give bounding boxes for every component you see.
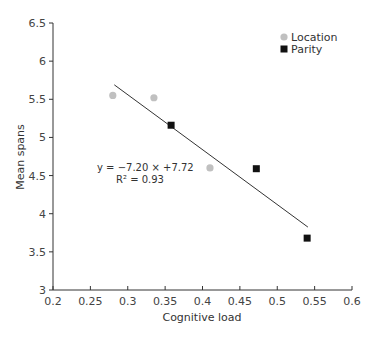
legend-label-parity: Parity	[291, 43, 323, 56]
x-tick-label: 0.5	[269, 295, 287, 308]
x-tick-label: 0.25	[78, 295, 103, 308]
y-axis-title: Mean spans	[14, 124, 27, 190]
x-axis-title: Cognitive load	[162, 311, 241, 324]
legend-marker-square-icon	[281, 46, 288, 53]
x-axis: 0.20.250.30.350.40.450.50.550.6	[44, 286, 361, 308]
x-tick-label: 0.6	[343, 295, 361, 308]
data-point-parity	[168, 122, 175, 129]
y-tick-label: 6.5	[29, 17, 47, 30]
x-tick-label: 0.35	[153, 295, 178, 308]
trendline-path	[114, 85, 308, 227]
r-squared-label: R² = 0.93	[116, 174, 164, 185]
data-point-location	[150, 94, 157, 101]
y-axis: 33.544.555.566.5	[29, 17, 54, 297]
x-tick-label: 0.3	[119, 295, 137, 308]
legend-marker-circle-icon	[280, 33, 287, 40]
x-tick-label: 0.2	[44, 295, 62, 308]
data-point-parity	[253, 165, 260, 172]
trendline	[114, 85, 308, 227]
y-tick-label: 4.5	[29, 170, 47, 183]
regression-equation: y = −7.20 × +7.72	[97, 162, 194, 173]
data-point-location	[109, 92, 116, 99]
y-tick-label: 3.5	[29, 246, 47, 259]
y-tick-label: 5.5	[29, 93, 47, 106]
legend: LocationParity	[280, 31, 337, 56]
y-tick-label: 5	[39, 131, 46, 144]
scatter-chart: 33.544.555.566.5 0.20.250.30.350.40.450.…	[0, 0, 375, 342]
x-tick-label: 0.45	[228, 295, 253, 308]
x-tick-label: 0.55	[302, 295, 327, 308]
y-tick-label: 4	[39, 208, 46, 221]
data-point-parity	[304, 235, 311, 242]
x-tick-label: 0.4	[194, 295, 212, 308]
data-point-location	[206, 164, 213, 171]
y-tick-label: 6	[39, 55, 46, 68]
